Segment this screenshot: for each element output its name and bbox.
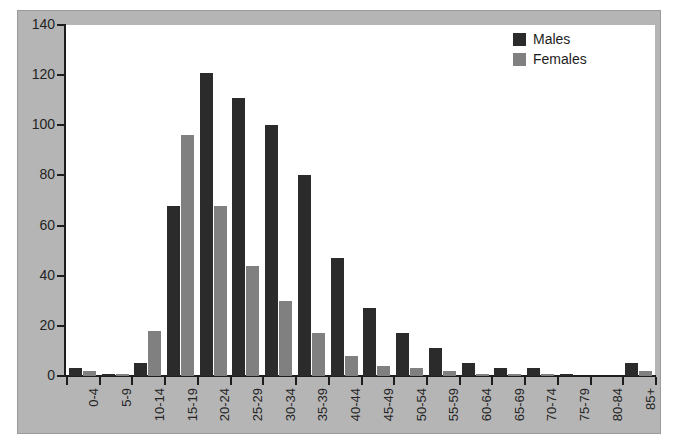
x-tick-label-80-84: 80-84 [611, 388, 624, 421]
x-tick-mark [622, 377, 624, 385]
bar-males-0-4 [69, 368, 82, 376]
x-tick-mark [295, 377, 297, 385]
bar-males-85+ [625, 363, 638, 376]
x-tick-label-5-9: 5-9 [120, 388, 133, 407]
bar-males-15-19 [167, 206, 180, 376]
bar-males-60-64 [462, 363, 475, 376]
x-tick-label-15-19: 15-19 [186, 388, 199, 421]
legend-item-females: Females [513, 52, 587, 66]
x-tick-mark [524, 377, 526, 385]
x-tick-mark [557, 377, 559, 385]
x-tick-mark [99, 377, 101, 385]
x-tick-mark [131, 377, 133, 385]
bar-females-5-9 [116, 374, 129, 377]
y-tick-label: 0 [10, 368, 55, 382]
bar-males-65-69 [494, 368, 507, 376]
y-tick-label: 140 [10, 17, 55, 31]
chart-root: 020406080100120140 0-45-910-1415-1920-24… [0, 0, 674, 448]
x-tick-mark [164, 377, 166, 385]
x-tick-label-65-69: 65-69 [513, 388, 526, 421]
x-tick-label-0-4: 0-4 [87, 388, 100, 407]
x-tick-mark [328, 377, 330, 385]
bar-females-35-39 [312, 333, 325, 376]
bar-females-10-14 [148, 331, 161, 376]
x-tick-mark [491, 377, 493, 385]
x-tick-mark [197, 377, 199, 385]
y-tick-label-text: 0 [15, 368, 55, 382]
legend-item-males: Males [513, 32, 587, 46]
bar-females-60-64 [476, 374, 489, 377]
legend-swatch-icon [513, 53, 526, 66]
bar-females-40-44 [345, 356, 358, 376]
y-tick-label-text: 120 [15, 67, 55, 81]
bar-males-10-14 [134, 363, 147, 376]
x-tick-mark [426, 377, 428, 385]
x-tick-label-50-54: 50-54 [415, 388, 428, 421]
x-tick-mark [590, 377, 592, 385]
y-tick-label: 120 [10, 67, 55, 81]
x-tick-mark [393, 377, 395, 385]
y-tick-label-text: 140 [15, 17, 55, 31]
bar-females-65-69 [508, 374, 521, 377]
x-tick-label-85+: 85+ [644, 388, 657, 410]
y-tick-label: 80 [10, 167, 55, 181]
y-tick-label-text: 40 [15, 268, 55, 282]
bar-males-75-79 [560, 374, 573, 377]
x-tick-label-30-34: 30-34 [284, 388, 297, 421]
bar-females-50-54 [410, 368, 423, 376]
bar-females-85+ [639, 371, 652, 376]
bar-females-55-59 [443, 371, 456, 376]
x-tick-label-70-74: 70-74 [545, 388, 558, 421]
x-tick-mark [262, 377, 264, 385]
bar-males-50-54 [396, 333, 409, 376]
bar-males-25-29 [232, 98, 245, 376]
x-tick-mark [66, 377, 68, 385]
x-tick-label-25-29: 25-29 [251, 388, 264, 421]
bar-males-45-49 [363, 308, 376, 376]
y-tick-label: 100 [10, 117, 55, 131]
x-tick-label-40-44: 40-44 [349, 388, 362, 421]
bar-males-35-39 [298, 175, 311, 376]
x-tick-mark [230, 377, 232, 385]
bar-males-70-74 [527, 368, 540, 376]
legend-label: Males [533, 32, 570, 46]
legend-swatch-icon [513, 33, 526, 46]
bar-males-40-44 [331, 258, 344, 376]
y-tick-label-text: 20 [15, 318, 55, 332]
y-tick-label: 60 [10, 218, 55, 232]
bar-females-45-49 [377, 366, 390, 376]
chart-legend: MalesFemales [513, 32, 587, 72]
x-tick-label-60-64: 60-64 [480, 388, 493, 421]
x-tick-label-20-24: 20-24 [218, 388, 231, 421]
x-tick-mark [459, 377, 461, 385]
bar-females-15-19 [181, 135, 194, 376]
x-tick-label-35-39: 35-39 [316, 388, 329, 421]
bars-layer [66, 25, 655, 376]
x-tick-label-75-79: 75-79 [578, 388, 591, 421]
bar-males-5-9 [102, 374, 115, 377]
bar-females-20-24 [214, 206, 227, 376]
x-tick-mark [655, 377, 657, 385]
x-tick-mark [361, 377, 363, 385]
bar-males-30-34 [265, 125, 278, 376]
y-tick-label-text: 80 [15, 167, 55, 181]
bar-females-30-34 [279, 301, 292, 376]
y-tick-label-text: 60 [15, 218, 55, 232]
bar-females-70-74 [541, 374, 554, 377]
x-tick-label-55-59: 55-59 [447, 388, 460, 421]
bar-females-25-29 [246, 266, 259, 376]
bar-females-0-4 [83, 371, 96, 376]
bar-males-55-59 [429, 348, 442, 376]
y-tick-label: 20 [10, 318, 55, 332]
x-tick-label-10-14: 10-14 [153, 388, 166, 421]
y-tick-label: 40 [10, 268, 55, 282]
x-tick-label-45-49: 45-49 [382, 388, 395, 421]
legend-label: Females [533, 52, 587, 66]
bar-males-20-24 [200, 73, 213, 376]
y-tick-label-text: 100 [15, 117, 55, 131]
